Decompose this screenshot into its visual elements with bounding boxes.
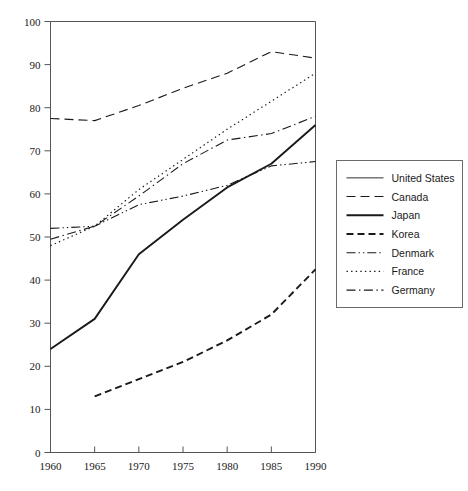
y-tick-label: 10 <box>30 403 42 415</box>
legend-label-united-states: United States <box>392 172 455 184</box>
y-tick-label: 80 <box>30 102 42 114</box>
legend-label-korea: Korea <box>392 228 420 240</box>
y-tick-label: 20 <box>30 360 42 372</box>
chart-legend: United StatesCanadaJapanKoreaDenmarkFran… <box>337 161 463 308</box>
x-axis-ticks: 1960196519701975198019851990 <box>40 447 328 472</box>
x-tick-label: 1975 <box>172 460 195 472</box>
x-tick-label: 1965 <box>84 460 107 472</box>
series-line-japan <box>51 125 316 349</box>
line-chart: 0102030405060708090100 19601965197019751… <box>0 0 468 491</box>
legend-label-germany: Germany <box>392 284 436 296</box>
y-tick-label: 50 <box>30 231 42 243</box>
x-tick-label: 1990 <box>305 460 328 472</box>
legend-label-denmark: Denmark <box>392 247 435 259</box>
y-tick-label: 40 <box>30 274 42 286</box>
series-line-canada <box>51 52 316 121</box>
series-group <box>51 52 316 397</box>
x-tick-label: 1960 <box>40 460 63 472</box>
x-tick-label: 1985 <box>260 460 283 472</box>
y-tick-label: 30 <box>30 317 42 329</box>
series-line-korea <box>95 269 316 396</box>
x-tick-label: 1980 <box>216 460 239 472</box>
axis-frame <box>51 22 316 453</box>
y-tick-label: 70 <box>30 145 42 157</box>
series-line-denmark <box>51 162 316 229</box>
y-tick-label: 90 <box>30 59 42 71</box>
y-tick-label: 0 <box>35 447 41 459</box>
y-tick-label: 60 <box>30 188 42 200</box>
legend-label-japan: Japan <box>392 209 421 221</box>
y-axis-ticks: 0102030405060708090100 <box>24 16 51 459</box>
y-tick-label: 100 <box>24 16 41 28</box>
chart-svg: 0102030405060708090100 19601965197019751… <box>0 0 468 491</box>
legend-label-canada: Canada <box>392 191 429 203</box>
x-tick-label: 1970 <box>128 460 151 472</box>
legend-label-france: France <box>392 265 425 277</box>
